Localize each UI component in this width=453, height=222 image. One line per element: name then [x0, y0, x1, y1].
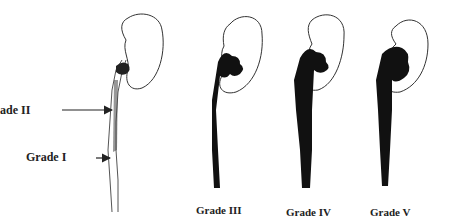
label-grade-iv: Grade IV	[286, 206, 331, 218]
kidney-ureter-grade-i-ii	[62, 14, 163, 212]
label-grade-i: Grade I	[26, 150, 66, 165]
kidney-ureter-grade-iii	[212, 17, 262, 188]
label-grade-iii: Grade III	[196, 204, 242, 216]
reflux-grades-diagram	[0, 0, 453, 222]
label-grade-v: Grade V	[370, 206, 410, 218]
kidney-ureter-grade-v	[376, 20, 428, 186]
kidney-ureter-grade-iv	[294, 15, 344, 188]
label-grade-ii: ade II	[0, 103, 30, 118]
